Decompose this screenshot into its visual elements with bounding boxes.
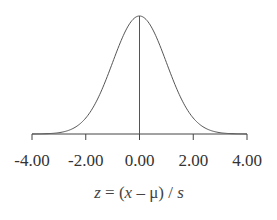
x-tick-label: -2.00 (68, 151, 103, 170)
normal-distribution-chart: -4.00-2.000.002.004.00 z = (x – μ) / s (0, 0, 277, 220)
x-tick-label: 2.00 (178, 151, 208, 170)
x-tick-label: 4.00 (232, 151, 262, 170)
x-tick-label: 0.00 (125, 151, 155, 170)
x-tick-labels: -4.00-2.000.002.004.00 (14, 151, 262, 170)
plot-area (32, 16, 247, 134)
x-axis-label: z = (x – μ) / s (93, 183, 184, 202)
x-tick-label: -4.00 (14, 151, 49, 170)
x-axis (32, 134, 247, 140)
